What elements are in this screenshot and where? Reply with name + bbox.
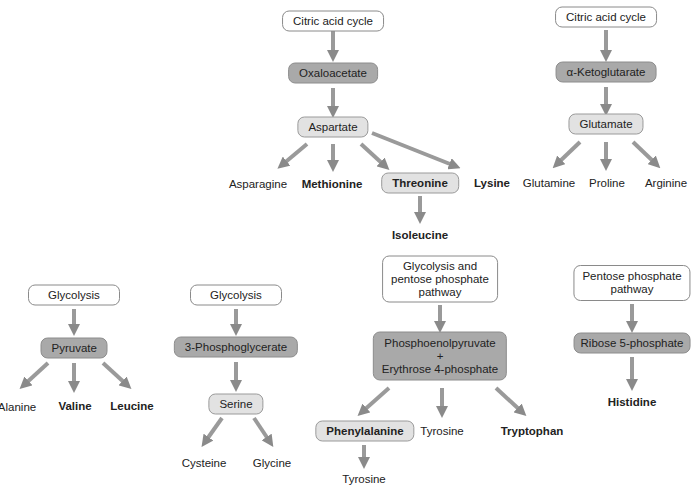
proline-label: Proline bbox=[589, 177, 625, 189]
arrow-pyruvate-leucine bbox=[103, 363, 127, 385]
arrow-glutamate-arginine bbox=[633, 142, 656, 164]
arrow-serine-cysteine bbox=[205, 418, 222, 442]
glutamine-label: Glutamine bbox=[523, 177, 575, 189]
3-phosphoglycerate-box: 3-Phosphoglycerate bbox=[174, 337, 298, 358]
isoleucine-label: Isoleucine bbox=[392, 229, 448, 241]
source-line-2: pentose phosphate bbox=[391, 273, 489, 286]
pep-line: Phosphoenolpyruvate bbox=[382, 337, 498, 350]
phenylalanine-box: Phenylalanine bbox=[315, 421, 414, 442]
cysteine-label: Cysteine bbox=[182, 457, 227, 469]
ppp-line-1: Pentose phosphate bbox=[582, 270, 681, 283]
arrow-aspartate-asparagine bbox=[282, 144, 307, 165]
glutamate-box: Glutamate bbox=[568, 114, 643, 135]
arginine-label: Arginine bbox=[645, 177, 687, 189]
plus-line: + bbox=[382, 350, 498, 363]
ribose-5-phosphate-box: Ribose 5-phosphate bbox=[574, 333, 691, 354]
oxaloacetate-box: Oxaloacetate bbox=[288, 63, 378, 84]
glycolysis-ppp-box: Glycolysis and pentose phosphate pathway bbox=[382, 256, 498, 303]
glycine-label: Glycine bbox=[253, 457, 291, 469]
arrow-pyruvate-alanine bbox=[24, 363, 48, 385]
arrow-aspartate-lysine bbox=[372, 133, 455, 166]
e4p-line: Erythrose 4-phosphate bbox=[382, 363, 498, 376]
arrow-pep-phenylalanine bbox=[362, 388, 389, 412]
source-line-1: Glycolysis and bbox=[391, 260, 489, 273]
glycolysis-box-2: Glycolysis bbox=[190, 285, 282, 306]
serine-box: Serine bbox=[208, 394, 263, 415]
arrow-pep-tryptophan bbox=[496, 388, 522, 412]
tyrosine-from-phenylalanine-label: Tyrosine bbox=[342, 473, 385, 485]
arrow-glutamate-glutamine bbox=[557, 142, 580, 164]
source-line-3: pathway bbox=[391, 286, 489, 299]
citric-acid-cycle-box-1: Citric acid cycle bbox=[282, 11, 384, 32]
tryptophan-label: Tryptophan bbox=[501, 425, 564, 437]
citric-acid-cycle-box-2: Citric acid cycle bbox=[555, 7, 657, 28]
alanine-label: Alanine bbox=[0, 401, 36, 413]
ppp-line-2: pathway bbox=[582, 283, 681, 296]
arrow-aspartate-threonine bbox=[361, 144, 385, 166]
aspartate-box: Aspartate bbox=[297, 117, 368, 138]
pentose-phosphate-box: Pentose phosphate pathway bbox=[573, 265, 690, 301]
leucine-label: Leucine bbox=[110, 400, 153, 412]
valine-label: Valine bbox=[58, 400, 91, 412]
arrow-serine-glycine bbox=[254, 418, 270, 442]
histidine-label: Histidine bbox=[608, 396, 657, 408]
glycolysis-box-1: Glycolysis bbox=[28, 285, 120, 306]
threonine-box: Threonine bbox=[381, 173, 459, 194]
lysine-label: Lysine bbox=[474, 177, 510, 189]
methionine-label: Methionine bbox=[302, 178, 363, 190]
tyrosine-label: Tyrosine bbox=[420, 425, 463, 437]
pyruvate-box: Pyruvate bbox=[41, 338, 108, 359]
asparagine-label: Asparagine bbox=[229, 178, 287, 190]
pep-e4p-box: Phosphoenolpyruvate + Erythrose 4-phosph… bbox=[373, 332, 507, 381]
alpha-ketoglutarate-box: α-Ketoglutarate bbox=[556, 62, 657, 83]
